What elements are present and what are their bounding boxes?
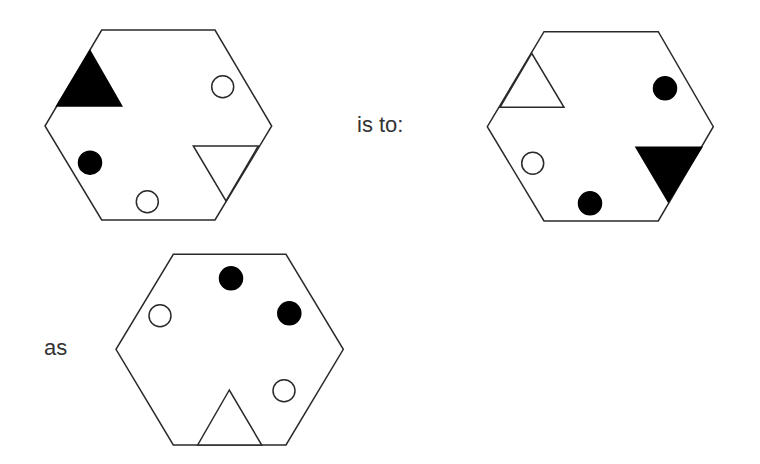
filled-circle-icon: [579, 192, 602, 215]
hexagon-outline: [487, 32, 713, 221]
figure-a: [45, 30, 272, 220]
filled-circle-icon: [654, 77, 677, 100]
as-label: as: [44, 337, 67, 359]
filled-circle-icon: [220, 267, 243, 290]
open-circle-icon: [522, 152, 544, 174]
analogy-puzzle-canvas: [0, 0, 760, 464]
open-circle-icon: [273, 380, 295, 402]
filled-circle-icon: [278, 302, 301, 325]
hexagon-outline: [45, 30, 272, 220]
open-circle-icon: [212, 76, 234, 98]
open-circle-icon: [136, 191, 158, 213]
figure-b: [487, 32, 713, 221]
open-circle-icon: [149, 305, 171, 327]
is-to-label: is to:: [357, 114, 403, 136]
figure-c: [116, 254, 343, 445]
filled-circle-icon: [79, 151, 102, 174]
